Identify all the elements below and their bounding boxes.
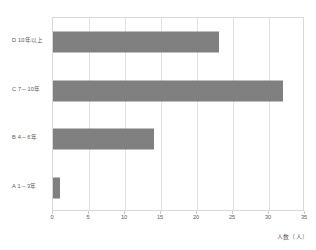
x-tick-label: 30	[265, 215, 271, 221]
bar-chart: D 10年以上C 7－10年B 4－6年A 1－3年 0510152025303…	[0, 0, 316, 250]
x-tick-label: 0	[50, 215, 53, 221]
x-tick-label: 25	[229, 215, 235, 221]
x-tick-label: 20	[193, 215, 199, 221]
category-label: C 7－10年	[12, 87, 40, 93]
x-tick-label: 35	[301, 215, 307, 221]
category-label: B 4－6年	[12, 135, 37, 141]
x-axis-title: 人数（人）	[277, 235, 308, 241]
x-tick-label: 10	[121, 215, 127, 221]
x-tick-label: 15	[157, 215, 163, 221]
category-label: D 10年以上	[12, 38, 43, 44]
x-tick-label: 5	[86, 215, 89, 221]
category-axis-labels: D 10年以上C 7－10年B 4－6年A 1－3年	[0, 17, 316, 211]
category-label: A 1－3年	[12, 184, 36, 190]
